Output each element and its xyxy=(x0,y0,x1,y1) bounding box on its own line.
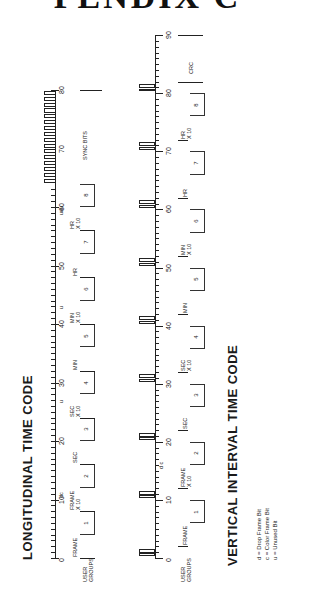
user-group-number: 8 xyxy=(83,194,89,197)
vitc-group-divider xyxy=(178,488,188,489)
vitc-tick xyxy=(155,384,163,385)
ltc-tick xyxy=(51,552,55,553)
vitc-user-label: GROUPS xyxy=(186,558,192,582)
vitc-sync-pulse xyxy=(139,84,155,88)
vitc-tick xyxy=(155,268,163,269)
ltc-tick xyxy=(51,359,55,360)
ltc-tick xyxy=(51,242,55,243)
vitc-group-label-x10: X 10 xyxy=(186,127,192,138)
vitc-tick xyxy=(155,35,163,36)
vitc-group-divider xyxy=(178,314,188,315)
ltc-tick xyxy=(51,505,55,506)
legend-item: c = Color Frame Bit xyxy=(263,508,271,560)
ltc-tick xyxy=(51,494,55,495)
vitc-tick xyxy=(155,233,159,234)
vitc-tick xyxy=(155,209,163,210)
sync-pulse xyxy=(44,167,56,171)
ltc-tick xyxy=(51,429,55,430)
vitc-tick xyxy=(155,395,159,396)
vitc-tick xyxy=(155,471,159,472)
vitc-tick xyxy=(155,76,159,77)
vitc-user-group-number: 8 xyxy=(193,103,199,106)
ltc-tick xyxy=(51,540,55,541)
vitc-tick xyxy=(155,157,159,158)
vitc-tick xyxy=(155,308,159,309)
group-divider xyxy=(80,324,95,325)
vitc-group-label: FRAME xyxy=(182,526,188,545)
vitc-sync-pulse xyxy=(139,89,155,92)
vitc-tick xyxy=(155,134,159,135)
vitc-tick xyxy=(155,541,159,542)
ltc-tick xyxy=(51,230,55,231)
ltc-group-label: SEC xyxy=(72,452,78,463)
vitc-tick xyxy=(155,302,159,303)
crc-bracket-top xyxy=(178,35,203,36)
vitc-group-label-x10: X 10 xyxy=(186,244,192,255)
vitc-sync-pulse xyxy=(139,258,155,262)
vitc-tick xyxy=(155,558,163,559)
vitc-tick xyxy=(155,291,159,292)
vitc-tick xyxy=(155,204,159,205)
sync-pulse xyxy=(44,144,56,148)
vitc-scale-label: 0 xyxy=(165,558,172,562)
vitc-tick xyxy=(155,122,159,123)
vitc-group-label: HR xyxy=(182,189,188,197)
vitc-tick xyxy=(155,448,159,449)
ltc-tick xyxy=(51,236,55,237)
ltc-tick xyxy=(51,523,55,524)
vitc-group-label-x10: X 10 xyxy=(186,360,192,371)
sync-pulse xyxy=(44,108,56,112)
ltc-tick xyxy=(51,423,55,424)
ltc-tick xyxy=(51,318,55,319)
sync-pulse xyxy=(44,126,56,130)
vitc-group-divider xyxy=(178,546,188,547)
ltc-tick xyxy=(51,447,55,448)
ltc-tick xyxy=(51,271,55,272)
vitc-user-group-number: 4 xyxy=(193,336,199,339)
vitc-sync-pulse xyxy=(139,491,155,495)
ltc-tick xyxy=(51,336,55,337)
vitc-sync-pulse xyxy=(139,374,155,378)
ltc-tick xyxy=(51,353,55,354)
ltc-tick xyxy=(51,476,55,477)
ltc-tick xyxy=(51,213,55,214)
vitc-user-group-number: 1 xyxy=(193,510,199,513)
sync-pulse xyxy=(44,155,56,159)
vitc-tick xyxy=(155,53,159,54)
vitc-scale-label: 30 xyxy=(165,380,172,388)
ltc-group-label-x10: X 10 xyxy=(75,312,81,323)
ltc-tick xyxy=(51,347,55,348)
ltc-tick xyxy=(51,219,55,220)
vitc-user-group-number: 6 xyxy=(193,219,199,222)
sync-pulse xyxy=(44,149,56,153)
vitc-sync-pulse xyxy=(139,553,155,556)
ltc-tick xyxy=(51,388,55,389)
user-group-number: 5 xyxy=(83,334,89,337)
vitc-tick xyxy=(155,413,159,414)
vitc-tick xyxy=(155,401,159,402)
group-divider xyxy=(80,371,95,372)
vitc-sync-pulse xyxy=(139,495,155,498)
vitc-tick xyxy=(155,273,159,274)
sync-bits-label: SYNC BITS xyxy=(82,131,88,160)
vitc-tick xyxy=(155,314,159,315)
sync-pulse xyxy=(44,179,56,183)
ltc-tick xyxy=(51,529,55,530)
vitc-tick xyxy=(155,355,159,356)
user-group-number: 6 xyxy=(83,287,89,290)
vitc-tick xyxy=(155,151,163,152)
ltc-tick xyxy=(51,470,55,471)
ltc-tick xyxy=(51,289,55,290)
ltc-group-label-x10: X 10 xyxy=(75,499,81,510)
ltc-tick xyxy=(51,306,55,307)
vitc-tick xyxy=(155,436,159,437)
vitc-user-group-number: 2 xyxy=(193,452,199,455)
unused-bit-mark: uuu xyxy=(58,206,64,215)
vitc-tick xyxy=(155,494,159,495)
user-group-number: 4 xyxy=(83,381,89,384)
sync-bracket-top xyxy=(80,90,102,91)
vitc-tick xyxy=(155,326,163,327)
ltc-user-label: GROUPS xyxy=(88,558,94,582)
ltc-group-label: FRAME xyxy=(72,538,78,557)
vitc-group-divider xyxy=(178,198,188,199)
